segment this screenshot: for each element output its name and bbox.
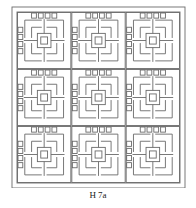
lattice-pattern-image bbox=[0, 0, 196, 188]
lattice-figure: H 7a bbox=[0, 0, 196, 208]
figure-caption: H 7a bbox=[0, 190, 196, 200]
